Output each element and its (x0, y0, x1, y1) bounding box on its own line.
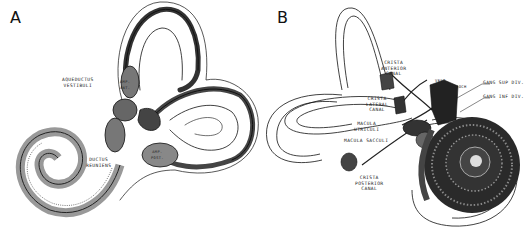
label-crista-posterior-canal: CRISTA POSTERIOR CANAL (355, 175, 384, 192)
labyrinth-drawing-a (0, 0, 262, 233)
label-vest: VEST (435, 78, 446, 84)
label-crista-anterior-canal: CRISTA ANTERIOR CANAL (381, 60, 406, 77)
label-macula-sacculi: MACULA SACCULI (344, 138, 388, 144)
label-amp-ant: AMP. ANT. (120, 80, 130, 91)
label-ductus-reuniens: DUCTUS REUNIENS (86, 157, 111, 168)
label-aqueductus-vestibuli: AQUEDUCTUS VESTIBULI (62, 77, 94, 88)
label-coch: COCH (456, 84, 467, 90)
panel-b: B (262, 0, 527, 233)
label-amp-post: AMP. POST. (151, 150, 164, 161)
label-gang-inf-div: GANG INF DIV. (483, 94, 524, 100)
label-gang-sup-div: GANG SUP DIV. (483, 80, 524, 86)
label-crista-lateral-canal: CRISTA LATERAL CANAL (366, 96, 388, 113)
label-macula-utriculi: MACULA UTRICULI (354, 121, 379, 132)
labyrinth-drawing-b (262, 0, 527, 233)
panel-a: A AQUEDUCTUS VEST (0, 0, 262, 233)
